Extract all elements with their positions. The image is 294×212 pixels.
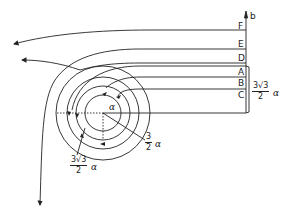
outer-radius-leader [77,128,85,155]
label-F: F [238,22,243,31]
inner-dimension-alpha: α [155,139,161,149]
flow-arrow-icon [75,113,79,118]
b-axis-arrow-icon [245,11,248,18]
diagram-graphics [0,0,294,212]
inner-dimension-fraction: 3 2 [145,133,152,152]
right-dimension-fraction: 3√3 2 [252,82,269,101]
label-A: A [238,68,244,77]
streamline-E [40,49,246,205]
label-C: C [238,91,244,100]
center-alpha-label: α [109,102,115,112]
label-D: D [238,54,245,63]
flow-arrow-icon [100,142,105,146]
streamline-diagram: b F E D A B C α 3√3 2 α 3 2 α 3√3 2 α [0,0,294,212]
outer-dimension-fraction: 3√3 2 [70,156,87,175]
flow-arrow-icon [67,111,71,116]
streamline-A [72,66,246,110]
label-E: E [238,40,244,49]
b-axis-label: b [250,12,256,21]
right-dimension-alpha: α [273,88,279,98]
outer-dimension-alpha: α [91,162,97,172]
streamline-F [14,30,246,44]
streamline-D [22,60,246,70]
label-B: B [238,79,244,88]
streamline-C [118,89,246,96]
